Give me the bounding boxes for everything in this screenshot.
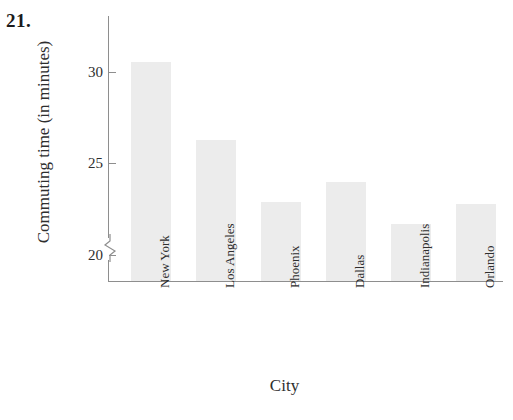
y-axis-tick-mark xyxy=(109,72,116,73)
y-axis-tick-label: 20 xyxy=(88,247,103,264)
y-axis-line-upper xyxy=(108,16,109,238)
figure-container: 21. Commuting time (in minutes) 202530 N… xyxy=(0,0,513,420)
problem-number: 21. xyxy=(6,10,31,32)
x-axis-tick-label: Dallas xyxy=(352,255,368,288)
y-axis-tick-label: 30 xyxy=(88,63,103,80)
y-axis-title: Commuting time (in minutes) xyxy=(34,12,54,272)
x-axis-tick-label: Phoenix xyxy=(287,245,303,288)
y-axis-tick-label: 25 xyxy=(88,155,103,172)
axis-break-symbol xyxy=(103,234,117,262)
x-axis-tick-label: New York xyxy=(157,235,173,288)
y-axis-tick-mark xyxy=(109,163,116,164)
x-axis-tick-label: Orlando xyxy=(482,245,498,288)
x-axis-title: City xyxy=(0,376,513,396)
x-axis-tick-label: Indianapolis xyxy=(417,224,433,288)
y-axis-line-lower xyxy=(108,260,109,282)
plot-area: 202530 New YorkLos AngelesPhoenixDallasI… xyxy=(108,16,503,282)
x-axis-tick-label: Los Angeles xyxy=(222,223,238,288)
y-axis-tick-mark xyxy=(109,255,116,256)
